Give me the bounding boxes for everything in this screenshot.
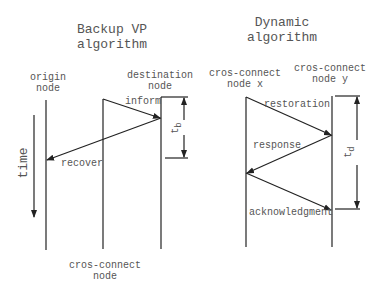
td-label: td [343, 146, 357, 157]
right-title-1: Dynamic [255, 15, 310, 30]
origin-node-label-1: origin [30, 72, 66, 83]
svg-text:td: td [343, 146, 357, 157]
left-title-2: algorithm [77, 37, 147, 52]
origin-node-label-2: node [36, 83, 60, 94]
left-title-1: Backup VP [77, 22, 147, 37]
acknowledgment-label: acknowledgment [249, 207, 333, 218]
node-x-label-1: cros-connect [209, 68, 281, 79]
sequence-diagram: Backup VP algorithm origin node destinat… [0, 0, 382, 291]
time-label: time [16, 147, 31, 178]
recover-arrow [47, 118, 161, 160]
tb-label: tb [170, 122, 184, 133]
svg-text:tb: tb [170, 122, 184, 133]
recover-label: recover [61, 158, 103, 169]
acknowledgment-arrow [246, 173, 331, 210]
destination-node-label-2: node [148, 81, 172, 92]
cros-connect-node-label-1: cros-connect [69, 260, 141, 271]
node-y-label-1: cros-connect [294, 63, 366, 74]
right-title-2: algorithm [247, 30, 317, 45]
cros-connect-node-label-2: node [93, 271, 117, 282]
restoration-label: restoration [264, 99, 330, 110]
inform-label: inform [125, 96, 161, 107]
node-x-label-2: node x [227, 79, 263, 90]
node-y-label-2: node y [312, 74, 348, 85]
destination-node-label-1: destination [127, 70, 193, 81]
response-label: response [253, 140, 301, 151]
